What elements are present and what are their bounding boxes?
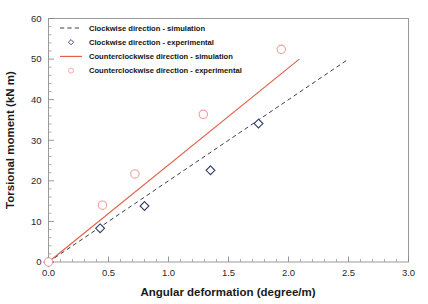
x-axis-ticks	[49, 257, 409, 263]
legend-entry-label: Counterclockwise direction - experimenta…	[89, 66, 242, 75]
series-line-2	[49, 59, 300, 262]
x-tick-label: 3.0	[402, 267, 415, 278]
marker-counterclockwise-experimental	[98, 201, 106, 209]
series-line-0	[49, 59, 349, 262]
y-tick-label: 30	[31, 135, 42, 146]
marker-counterclockwise-experimental	[131, 170, 139, 178]
legend-swatch-circle	[69, 68, 74, 73]
marker-counterclockwise-experimental	[44, 258, 52, 266]
legend-entry-label: Clockwise direction - experimental	[89, 38, 214, 47]
x-tick-label: 0.0	[42, 267, 55, 278]
y-tick-label: 60	[31, 13, 42, 24]
chart-legend: Clockwise direction - simulationClockwis…	[60, 24, 242, 76]
chart-figure: 0.00.51.01.52.02.53.0 0102030405060 Cloc…	[0, 0, 428, 304]
y-tick-label: 40	[31, 94, 42, 105]
marker-clockwise-experimental	[140, 202, 149, 211]
x-axis-title: Angular deformation (degree/m)	[140, 286, 315, 298]
x-axis-tick-labels: 0.00.51.01.52.02.53.0	[42, 267, 415, 278]
y-tick-label: 20	[31, 175, 42, 186]
series-markers-layer	[44, 45, 285, 266]
marker-clockwise-experimental	[254, 119, 263, 128]
x-tick-label: 2.5	[342, 267, 355, 278]
y-axis-tick-labels: 0102030405060	[31, 13, 42, 268]
legend-entry-label: Counterclockwise direction - simulation	[89, 52, 233, 61]
torsional-moment-scatter-chart: 0.00.51.01.52.02.53.0 0102030405060 Cloc…	[0, 0, 428, 304]
x-tick-label: 0.5	[102, 267, 115, 278]
y-tick-label: 50	[31, 53, 42, 64]
y-tick-label: 0	[36, 256, 41, 267]
marker-clockwise-experimental	[96, 224, 105, 233]
y-axis-ticks	[49, 19, 55, 263]
legend-swatch-diamond	[68, 40, 73, 45]
y-axis-title: Torsional moment (kN m)	[4, 71, 16, 209]
x-tick-label: 1.0	[162, 267, 175, 278]
x-tick-label: 2.0	[282, 267, 295, 278]
x-tick-label: 1.5	[222, 267, 235, 278]
y-tick-label: 10	[31, 216, 42, 227]
legend-entry-label: Clockwise direction - simulation	[89, 24, 205, 33]
series-lines-layer	[49, 59, 349, 262]
marker-counterclockwise-experimental	[199, 110, 207, 118]
marker-counterclockwise-experimental	[277, 45, 285, 53]
marker-clockwise-experimental	[206, 166, 215, 175]
